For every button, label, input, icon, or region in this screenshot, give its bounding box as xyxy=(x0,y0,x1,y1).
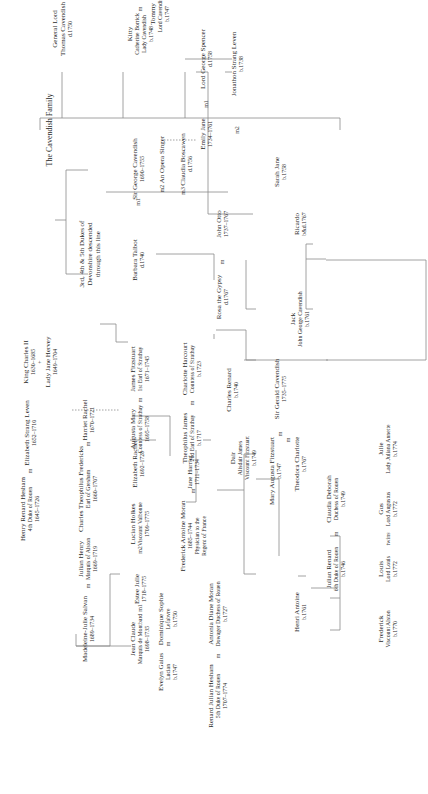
person-frederick-antoine-moran: Frederick Antoine Moran 1685–1744 Physic… xyxy=(179,500,207,571)
person-theodora-charlotte: Theodora Charlotte b.1767 xyxy=(293,437,308,492)
person-elizabeth-strang-leven: Elizabeth Strang Leven 1652–1710 xyxy=(23,400,38,466)
person-tommy: Tommy Lord Cavendish b.1747 xyxy=(149,0,171,33)
person-ricardo: Ricardo b&d.1767 xyxy=(293,212,308,235)
person-charles-renard: Charles Renard b.1740 xyxy=(225,368,240,411)
person-elizabeth-rachel: Elizabeth Rachel 1692–1728 xyxy=(131,440,146,488)
marriage-mark: m xyxy=(219,260,225,265)
person-rosa-the-gypsy: Rosa the Gypsy d.1767 xyxy=(215,275,230,319)
marriage-mark: m xyxy=(189,401,195,406)
marriage-mark: m xyxy=(85,442,91,447)
person-opera-singer: m2 An Opera Singer xyxy=(158,136,166,192)
person-claudia-boscawen: m3 Claudia Boscawen d.1756 xyxy=(179,133,194,194)
person-lucian-holkes: Lucian Holkes Viscount Valbonne 1709–177… xyxy=(129,502,151,546)
person-antonia-diane-moran: Antonia Diane Moran Dowager Duchess of R… xyxy=(207,581,229,646)
person-jack: Jack John George Cavendish b.1761 xyxy=(289,291,311,346)
marriage-mark: m xyxy=(190,489,196,494)
person-charlotte-harcourt: Charlotte Harcourt Countess of Strathay … xyxy=(181,343,203,396)
marriage-mark: m xyxy=(277,432,283,437)
marriage-mark: m xyxy=(137,7,143,12)
person-julie: Julie Lady Juliana Annette b.1774 xyxy=(377,424,399,473)
person-renard-julian-hesham: Renard Julian Hesham 5th Duke of Rouen 1… xyxy=(207,664,229,727)
family-tree-diagram: The Cavendish Family General Lord Thomas… xyxy=(0,0,428,794)
marriage-mark-m2: m2 xyxy=(137,546,143,554)
person-mary-augusta-fitzstuart: Mary Augusta Fitzstuart b.1747 xyxy=(268,437,283,505)
person-charles-theophilus-fredericks: Charles Theophilus Fredericks Earl of Gr… xyxy=(77,446,99,532)
person-king-charles-ii: King Charles II 1630–1685 + Lady Jane He… xyxy=(22,337,58,388)
person-louis: Louis Lord Louis b.1772 xyxy=(377,556,399,582)
person-frederick: Frederick Viscount Alston b.1770 xyxy=(377,610,399,647)
twins-mark: twins xyxy=(385,532,391,545)
person-madeleine-julie-salvan: Madeleine-Julie Salvan 1689–1734 xyxy=(81,596,96,662)
marriage-mark: m xyxy=(137,398,143,403)
person-jean-claude: Jean Claude Marquis de Montbard 1698–173… xyxy=(129,614,151,665)
person-john-otto: John Otto 1737–1767 xyxy=(215,210,230,237)
person-general-lord: General Lord Thomas Cavendish d.1750 xyxy=(51,2,74,56)
person-jonathon-strang-leven: Jonathon Strang Leven b.1738 xyxy=(230,32,245,97)
person-evelyn-gaius: Evelyn Gaius Lucian b.1747 xyxy=(157,653,179,691)
person-emily-jane: Emily Jane 1734–1761 xyxy=(199,118,214,149)
person-harriet-rachel: Harriet Rachel 1670–1721 xyxy=(81,399,96,440)
person-henry-renard-hesham: Henry Renard Hesham 4th Duke of Rouen 16… xyxy=(19,477,41,541)
marriage-mark: m xyxy=(215,654,221,659)
marriage-mark-m2: m2 xyxy=(234,126,240,134)
person-julian-henry: Julian Henry Marquis of Alston 1669–1719 xyxy=(77,538,99,580)
person-dominique-sophie: Dominique Sophie Lefabvre b.1750 xyxy=(157,593,179,646)
person-sir-george-cavendish: Sir George Cavendish 1690–1755 xyxy=(131,138,146,200)
family-title: The Cavendish Family xyxy=(46,94,53,167)
note-devonshire-dukes: 3rd, 4th & 5th Dukes of Devonshire desce… xyxy=(78,221,102,288)
person-claudia-deborah: Claudia Deborah Duchess of Rouen b.1749 xyxy=(325,475,347,523)
person-sir-gerald-cavendish: Sir Gerald Cavendish 1735–1775 xyxy=(273,359,288,419)
person-sarah-jane: Sarah Jane b.1758 xyxy=(273,157,288,187)
person-jane-harriet: Jane Harriet 1711–1734 xyxy=(186,455,201,489)
person-lord-george-spencer: Lord George Spencer d.1758 xyxy=(199,29,214,89)
marriage-mark: m xyxy=(85,584,91,589)
marriage-mark-m1: m1 xyxy=(203,100,209,108)
marriage-mark: m xyxy=(285,438,291,443)
person-julian-renard: Julian Renard 6th Duke of Rouen b.1746 xyxy=(325,547,347,591)
person-dair: Dair Alisdair James Viscount Fitzstuart … xyxy=(229,436,257,480)
person-estee-julie: Estee Julie 1718–1775 xyxy=(133,574,148,604)
marriage-mark: m xyxy=(333,532,339,537)
person-gus: Gus Lord Augustus b.1772 xyxy=(377,492,399,526)
person-james-fitzstuart: James Fitzstuart 1st Earl of Strathay 16… xyxy=(129,346,151,391)
person-barbara-talbot: Barbara Talbot d.1740 xyxy=(131,239,146,281)
marriage-mark: m xyxy=(27,469,33,474)
person-henri-antoine: Henri Antoine b.1761 xyxy=(293,592,308,632)
marriage-mark-m1: m1 xyxy=(137,604,143,612)
